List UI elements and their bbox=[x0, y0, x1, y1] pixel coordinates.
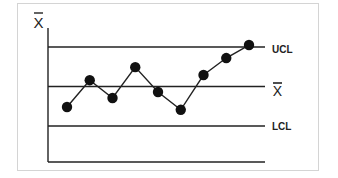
data-point bbox=[221, 53, 231, 63]
y-axis-label: X bbox=[33, 13, 43, 31]
y-axis-label-text: X bbox=[33, 14, 43, 31]
data-series bbox=[62, 40, 254, 115]
center-line-label-text: X bbox=[273, 83, 283, 99]
lcl-label: LCL bbox=[272, 121, 291, 132]
center-line-label: X bbox=[273, 83, 283, 99]
ucl-label: UCL bbox=[272, 44, 293, 55]
data-point bbox=[153, 87, 163, 97]
data-point bbox=[107, 93, 117, 103]
control-lines bbox=[48, 47, 265, 126]
data-point bbox=[244, 40, 254, 50]
series-line bbox=[67, 45, 249, 110]
control-chart: X UCL X LCL bbox=[0, 0, 338, 178]
data-point bbox=[62, 102, 72, 112]
data-point bbox=[130, 62, 140, 72]
data-point bbox=[198, 70, 208, 80]
data-point bbox=[85, 75, 95, 85]
data-point bbox=[176, 105, 186, 115]
